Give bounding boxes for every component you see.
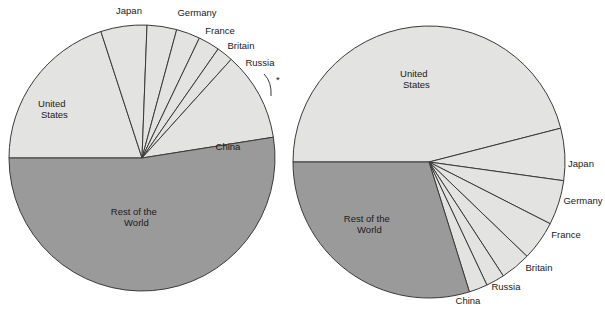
right-pie-slices [293, 26, 565, 298]
right-label-united-states-line2: States [403, 79, 430, 90]
left-label-britain: Britain [228, 40, 255, 51]
right-label-russia: Russia [491, 281, 521, 292]
right-label-united-states: United States [400, 68, 446, 90]
left-label-japan: Japan [116, 5, 142, 16]
left-label-united-states-line1: United [38, 98, 65, 109]
left-label-germany: Germany [177, 7, 216, 18]
left-label-china: China [216, 141, 242, 152]
left-label-russia: Russia [245, 57, 275, 68]
russia-leader-asterisk-icon: * [276, 74, 280, 85]
right-label-germany: Germany [563, 195, 602, 206]
left-label-united-states-line2: States [41, 109, 68, 120]
right-label-rest-line1: Rest of the [344, 213, 390, 224]
two-pie-charts-figure: * United States Japan Germany France Bri… [0, 0, 605, 311]
right-label-britain: Britain [526, 262, 553, 273]
right-label-japan: Japan [568, 158, 594, 169]
right-label-china: China [456, 295, 482, 306]
right-label-france: France [551, 229, 581, 240]
right-label-rest-line2: World [357, 224, 382, 235]
left-label-rest-line1: Rest of the [111, 206, 157, 217]
left-label-rest-line2: World [124, 217, 149, 228]
left-label-united-states: United States [38, 98, 84, 120]
right-label-united-states-line1: United [400, 68, 427, 79]
left-pie-slices [9, 25, 275, 291]
left-label-france: France [205, 25, 235, 36]
